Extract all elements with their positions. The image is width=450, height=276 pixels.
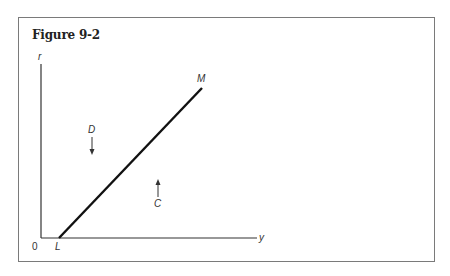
arrow-up-icon xyxy=(156,179,161,197)
curve-start-label: L xyxy=(55,241,61,252)
x-axis-label: y xyxy=(259,232,264,243)
origin-label: 0 xyxy=(32,241,38,252)
region-d-label: D xyxy=(88,124,95,135)
arrow-down-icon xyxy=(90,137,95,155)
lm-curve xyxy=(59,88,202,238)
region-c-label: C xyxy=(154,198,161,209)
curve-end-label: M xyxy=(197,73,205,84)
y-axis-label: r xyxy=(38,51,41,62)
lm-diagram xyxy=(0,0,450,276)
